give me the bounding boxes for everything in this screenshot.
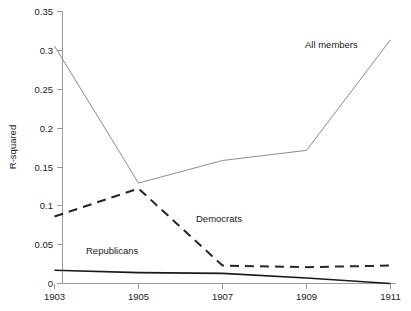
series-line-all-members xyxy=(55,40,391,183)
x-tick-label-1911: 1911 xyxy=(380,291,400,302)
y-tick-label-015: 0.15 xyxy=(35,162,54,173)
y-tick-label-000: 0 xyxy=(48,278,53,289)
series-label-all-members: All members xyxy=(305,39,358,50)
y-tick-label-035: 0.35 xyxy=(35,6,54,17)
y-tick-label-010: 0.1 xyxy=(40,200,53,211)
y-axis-title: R-squared xyxy=(7,125,18,169)
y-tick-label-025: 0.25 xyxy=(35,84,54,95)
series-line-republicans xyxy=(55,270,391,283)
y-axis-group: 0.35 0.3 0.25 0.2 0.15 0.1 0.05 0 xyxy=(35,6,63,289)
series-label-democrats: Democrats xyxy=(196,213,242,224)
y-tick-label-020: 0.2 xyxy=(40,123,53,134)
x-tick-label-1909: 1909 xyxy=(296,291,317,302)
x-axis-group: 1903 1905 1907 1909 1911 xyxy=(44,284,401,303)
x-tick-label-1905: 1905 xyxy=(128,291,149,302)
chart-page: 0.35 0.3 0.25 0.2 0.15 0.1 0.05 0 1903 1… xyxy=(0,0,411,311)
x-tick-label-1907: 1907 xyxy=(212,291,233,302)
y-tick-label-005: 0.05 xyxy=(35,239,54,250)
y-tick-label-030: 0.3 xyxy=(40,45,53,56)
x-tick-label-1903: 1903 xyxy=(44,291,65,302)
series-label-republicans: Republicans xyxy=(86,245,139,256)
line-chart: 0.35 0.3 0.25 0.2 0.15 0.1 0.05 0 1903 1… xyxy=(0,0,411,311)
